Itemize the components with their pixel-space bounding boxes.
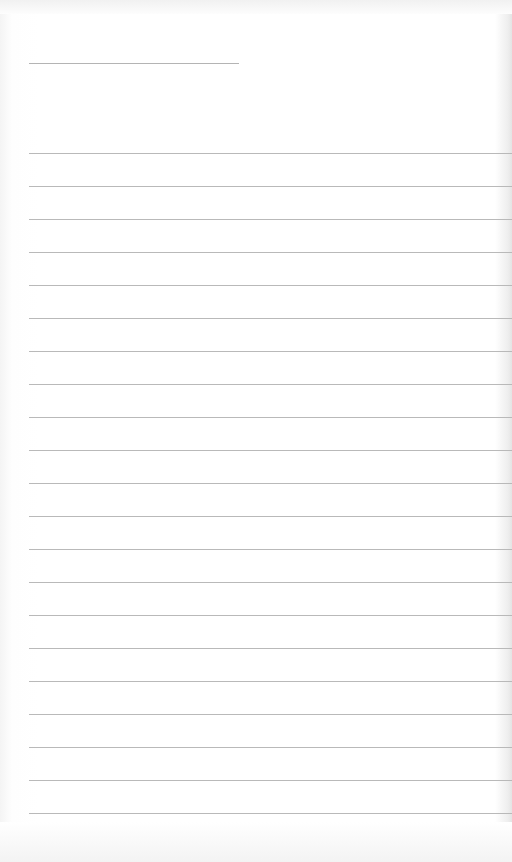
ruled-line [29,351,512,352]
header-name-line [29,63,239,64]
ruled-line [29,252,512,253]
ruled-line [29,153,512,154]
ruled-line [29,483,512,484]
ruled-line [29,516,512,517]
ruled-line [29,714,512,715]
ruled-line [29,186,512,187]
ruled-line [29,681,512,682]
ruled-line [29,582,512,583]
ruled-line [29,747,512,748]
ruled-line [29,384,512,385]
bottom-edge-shadow [0,822,512,862]
ruled-line [29,318,512,319]
top-edge-shadow [0,0,512,14]
ruled-line [29,615,512,616]
lined-paper-page [0,0,512,862]
ruled-line [29,648,512,649]
ruled-line [29,219,512,220]
ruled-line [29,549,512,550]
ruled-line [29,450,512,451]
ruled-line [29,780,512,781]
ruled-line [29,813,512,814]
ruled-line [29,285,512,286]
ruled-line [29,417,512,418]
